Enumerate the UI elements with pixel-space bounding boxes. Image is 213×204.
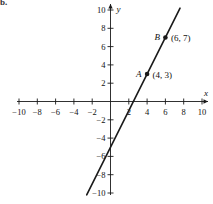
point-coordinate-label-b: (6, 7) [171,33,191,43]
y-axis-tick-label: 6 [101,42,105,52]
axis-name-labels-group: xy [116,4,209,98]
point-name-label-b: B [154,32,160,42]
y-axis-arrowhead [108,4,112,9]
x-axis-tick-label: 8 [182,107,186,117]
x-axis-tick-label: −10 [12,107,25,117]
x-axis-tick-label: −2 [88,107,97,117]
x-axis-arrowhead [204,99,209,103]
x-axis-tick-labels-group: −10−8−6−4−2246810 [12,107,206,117]
coordinate-plane-figure: b. −10−8−6−4−2246810 −10−8−6−4−2246810 A… [0,0,213,204]
y-axis-tick-label: −4 [96,133,106,143]
point-name-label-a: A [135,69,142,79]
coordinate-plane-svg: −10−8−6−4−2246810 −10−8−6−4−2246810 A(4,… [0,0,213,204]
y-axis-tick-label: 2 [101,78,105,88]
y-axis-tick-label: 4 [101,60,106,70]
data-points-group: A(4, 3)B(6, 7) [135,32,190,79]
x-axis-name-label: x [203,88,208,98]
data-point-b [163,35,168,40]
y-axis-tick-label: 8 [101,23,105,33]
x-axis-tick-label: −4 [69,107,79,117]
x-axis-tick-label: −6 [51,107,60,117]
y-axis-tick-label: −2 [96,115,105,125]
y-axis-tick-label: −10 [92,188,105,198]
x-axis-tick-label: −8 [33,107,42,117]
y-axis-name-label: y [116,4,121,14]
x-axis-tick-label: 6 [163,107,167,117]
x-axis-tick-label: 10 [198,107,207,117]
point-coordinate-label-a: (4, 3) [153,70,173,80]
data-point-a [145,72,150,77]
y-axis-tick-label: 10 [97,5,106,15]
x-axis-tick-label: 4 [145,107,150,117]
